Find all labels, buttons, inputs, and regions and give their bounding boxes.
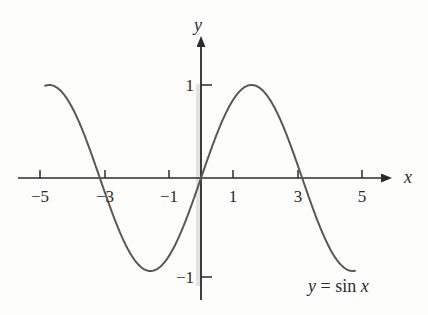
x-tick-label: −1 xyxy=(160,188,178,205)
x-tick-label: −3 xyxy=(96,188,114,205)
x-tick-label: −5 xyxy=(31,188,49,205)
sine-graph-figure: −5−3−1135 1−1 y x y = sin x xyxy=(0,0,428,315)
x-axis-group xyxy=(18,170,382,178)
equation-lhs: y xyxy=(308,276,316,296)
x-tick-label: 3 xyxy=(294,188,303,205)
y-axis-label: y xyxy=(194,16,202,34)
y-tick-label: −1 xyxy=(176,269,194,286)
curve-equation-annotation: y = sin x xyxy=(308,277,369,295)
x-axis-label: x xyxy=(404,168,412,186)
x-tick-label: 1 xyxy=(229,188,238,205)
y-tick-label: 1 xyxy=(186,77,195,94)
equation-variable: x xyxy=(361,276,369,296)
plot-canvas xyxy=(0,0,428,315)
equation-function: sin xyxy=(335,276,356,296)
x-tick-label: 5 xyxy=(358,188,367,205)
y-axis-ticks xyxy=(201,85,212,277)
equation-equals: = xyxy=(321,276,331,296)
